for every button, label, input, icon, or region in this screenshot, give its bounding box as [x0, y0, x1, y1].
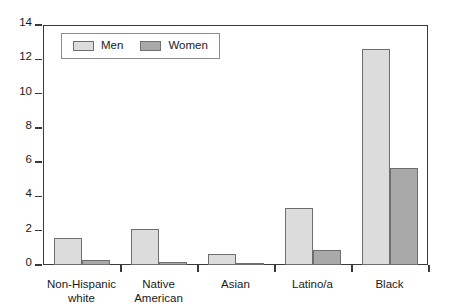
bar-group — [197, 25, 274, 265]
y-axis-tick-label: 6 — [26, 154, 32, 166]
y-axis-tick-mark — [35, 59, 42, 61]
y-axis-tick-label: 12 — [19, 51, 32, 63]
category-label-line: Non-Hispanic — [47, 278, 116, 290]
bar-group — [274, 25, 351, 265]
legend-label-women: Women — [168, 40, 207, 52]
category-label-line: white — [43, 292, 120, 306]
category-label-line: Asian — [221, 278, 250, 290]
y-axis-tick-label: 0 — [26, 257, 32, 269]
y-axis-tick-label: 4 — [26, 188, 32, 200]
bar-men — [208, 254, 236, 265]
y-axis-tick-label: 8 — [26, 120, 32, 132]
category-label-line: Latino/a — [292, 278, 333, 290]
x-axis-category-label: NativeAmerican — [120, 278, 197, 305]
y-axis-tick-label: 2 — [26, 223, 32, 235]
legend-entry-men: Men — [73, 40, 123, 52]
y-axis-tick-label: 10 — [19, 86, 32, 98]
y-axis-tick-mark — [35, 161, 42, 163]
x-axis-category-label: Asian — [197, 278, 274, 292]
y-axis-tick-mark — [35, 93, 42, 95]
x-axis-category-label: Black — [351, 278, 428, 292]
bar-men — [285, 208, 313, 265]
bar-group — [43, 25, 120, 265]
bar-men — [131, 229, 159, 265]
bar-women — [159, 262, 187, 265]
x-axis-category-label: Latino/a — [274, 278, 351, 292]
bar-groups — [43, 25, 428, 265]
y-axis-tick-mark — [35, 230, 42, 232]
x-axis-category-label: Non-Hispanicwhite — [43, 278, 120, 305]
bar-women — [236, 263, 264, 265]
x-axis-tick-mark — [197, 265, 199, 272]
legend-label-men: Men — [101, 40, 123, 52]
x-axis-tick-mark — [351, 265, 353, 272]
bar-men — [54, 238, 82, 265]
legend-swatch-women-icon — [140, 41, 161, 51]
x-axis-tick-mark — [120, 265, 122, 272]
category-label-line: Black — [375, 278, 403, 290]
x-axis-tick-mark — [274, 265, 276, 272]
y-axis-tick-label: 14 — [19, 17, 32, 29]
chart-legend: Men Women — [61, 33, 220, 59]
bar-men — [362, 49, 390, 265]
y-axis-tick-mark — [35, 127, 42, 129]
x-axis-tick-mark — [428, 265, 430, 272]
category-label-line: American — [120, 292, 197, 306]
y-axis-tick-mark — [35, 264, 42, 266]
y-axis-tick-mark — [35, 196, 42, 198]
legend-swatch-men-icon — [73, 41, 94, 51]
y-axis-tick-mark — [35, 24, 42, 26]
bar-women — [313, 250, 341, 265]
bar-group — [120, 25, 197, 265]
bar-women — [82, 260, 110, 265]
legend-entry-women: Women — [140, 40, 207, 52]
bar-group — [351, 25, 428, 265]
bar-women — [390, 168, 418, 265]
category-label-line: Native — [142, 278, 175, 290]
bar-chart: 02468101214 Non-HispanicwhiteNativeAmeri… — [0, 0, 457, 307]
